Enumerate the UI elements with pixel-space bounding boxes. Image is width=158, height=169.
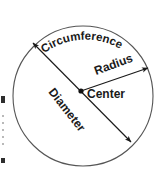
radius-label: Radius: [92, 51, 135, 78]
page-margin-artifact: [2, 136, 4, 138]
page-margin-artifact: [1, 96, 5, 103]
circle-outline: [13, 26, 153, 166]
page-margin-artifact: [2, 115, 4, 117]
circle-diagram-canvas: Circumference Radius Center Diameter: [0, 0, 158, 169]
page-margin-artifact: [1, 158, 5, 163]
page-margin-artifact: [2, 129, 4, 131]
page-margin-artifact: [2, 143, 4, 145]
center-label: Center: [87, 87, 125, 101]
center-point-dot: [78, 88, 83, 93]
circle-diagram-figure: Circumference Radius Center Diameter: [0, 0, 158, 169]
page-margin-artifact: [2, 122, 4, 124]
